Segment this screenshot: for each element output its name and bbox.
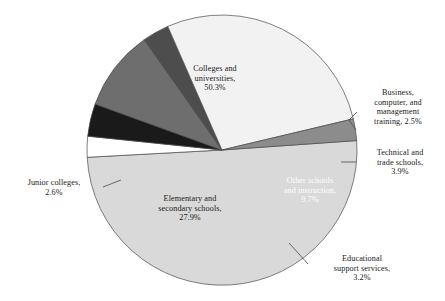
- slice-label-other-schools-and-instruction: Other schools and instruction, 9.7%: [262, 176, 358, 205]
- slice-label-colleges-and-universities: Colleges and universities, 50.3%: [150, 64, 280, 93]
- slice-label-junior-colleges: Junior colleges, 2.6%: [6, 178, 102, 197]
- slice-label-elementary-and-secondary-schools: Elementary and secondary schools, 27.9%: [128, 194, 252, 223]
- pie-chart-figure: Colleges and universities, 50.3% Busines…: [0, 0, 445, 301]
- pie-slices-group: [87, 15, 357, 285]
- slice-label-business-computer-management-training: Business, computer, and management train…: [352, 88, 444, 126]
- slice-label-technical-and-trade-schools: Technical and trade schools, 3.9%: [356, 148, 444, 177]
- slice-label-educational-support-services: Educational support services, 3.2%: [312, 254, 412, 283]
